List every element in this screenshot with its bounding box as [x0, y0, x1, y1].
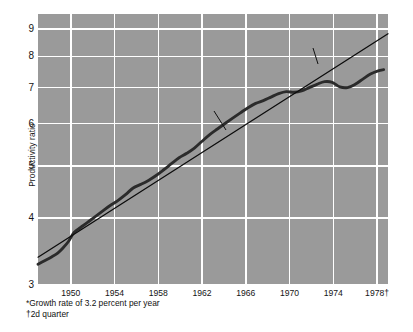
- chart-canvas: [0, 0, 413, 332]
- plot-area-background: [38, 14, 388, 285]
- productivity-chart-figure: Productivity ratio 9 8 7 6 5 4 3 1950 19…: [0, 0, 413, 332]
